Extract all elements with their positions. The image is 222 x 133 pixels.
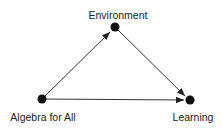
label-learning: Learning [173,111,214,123]
node-learning [186,96,195,105]
label-environment: Environment [89,9,148,21]
node-algebra [38,95,47,104]
label-algebra: Algebra for All [10,111,75,123]
node-environment [111,23,120,32]
edge-algebra-to-learning [42,99,184,100]
causal-diagram: Environment Algebra for All Learning [0,0,222,133]
edge-algebra-to-environment [42,32,110,99]
edge-environment-to-learning [115,27,185,96]
